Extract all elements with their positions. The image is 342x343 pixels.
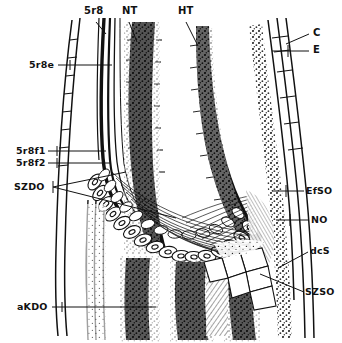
label-ht: HT (178, 6, 194, 16)
lower-left-stipple (86, 204, 106, 340)
anatomical-illustration (0, 0, 342, 343)
figure-container: 5r8 NT HT 5r8e 5r8f1 5r8f2 SZDO aKDO C E… (0, 0, 342, 343)
label-5r8f2: 5r8f2 (16, 158, 46, 168)
label-nt: NT (122, 6, 138, 16)
label-szso: SZSO (305, 287, 334, 297)
label-e: E (313, 45, 320, 55)
label-szdo: SZDO (14, 182, 45, 192)
label-5r8: 5r8 (84, 6, 103, 16)
label-dcs: dcS (310, 246, 330, 256)
label-c: C (313, 28, 321, 38)
label-no: NO (311, 215, 327, 225)
label-5r8e: 5r8e (29, 60, 54, 70)
label-akdo: aKDO (17, 302, 48, 312)
label-5r8f1: 5r8f1 (16, 146, 46, 156)
label-efso: EfSO (306, 186, 332, 196)
